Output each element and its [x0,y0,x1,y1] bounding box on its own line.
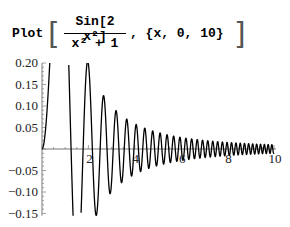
plot-curve [42,63,274,216]
x-tick-label: 2 [86,151,93,166]
plot-area: 0.200.150.100.05−0.05−0.10−0.15246810 [0,0,290,227]
x-tick-label: 8 [225,151,232,166]
y-tick-label: −0.05 [8,163,38,178]
y-tick-label: −0.10 [8,184,38,199]
y-tick-label: −0.15 [8,206,38,221]
y-tick-label: 0.05 [15,120,38,135]
x-tick-label: 4 [133,151,140,166]
y-tick-label: 0.20 [15,55,38,70]
x-tick-label: 10 [269,151,282,166]
x-tick-label: 6 [179,151,186,166]
y-tick-label: 0.10 [15,98,38,113]
y-tick-label: 0.15 [15,77,38,92]
